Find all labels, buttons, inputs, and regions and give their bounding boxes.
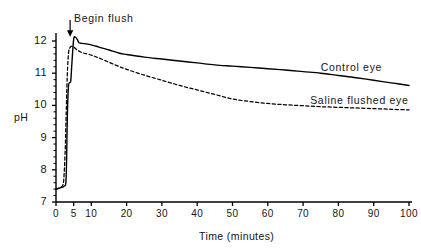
y-tick-label: 10: [29, 99, 47, 110]
series-line-saline-flushed-eye: [56, 46, 409, 189]
x-tick-label: 10: [79, 209, 103, 219]
y-tick-label: 9: [29, 132, 47, 143]
x-tick-label: 50: [221, 209, 245, 219]
x-tick-label: 100: [397, 209, 421, 219]
x-tick-label: 80: [326, 209, 350, 219]
x-tick-label: 90: [362, 209, 386, 219]
begin-flush-arrow-icon: [67, 20, 73, 37]
y-tick-label: 8: [29, 164, 47, 175]
axis-lines: [56, 33, 412, 202]
x-tick-label: 20: [115, 209, 139, 219]
series-lines: [56, 37, 409, 190]
x-tick-label: 30: [150, 209, 174, 219]
y-tick-label: 11: [29, 67, 47, 78]
x-tick-label: 70: [291, 209, 315, 219]
y-tick-label: 7: [29, 196, 47, 207]
chart-figure: pH Time (minutes) Begin flush Control ey…: [0, 0, 421, 252]
y-tick-label: 12: [29, 35, 47, 46]
series-line-control-eye: [56, 37, 409, 190]
x-tick-label: 40: [185, 209, 209, 219]
x-tick-label: 60: [256, 209, 280, 219]
